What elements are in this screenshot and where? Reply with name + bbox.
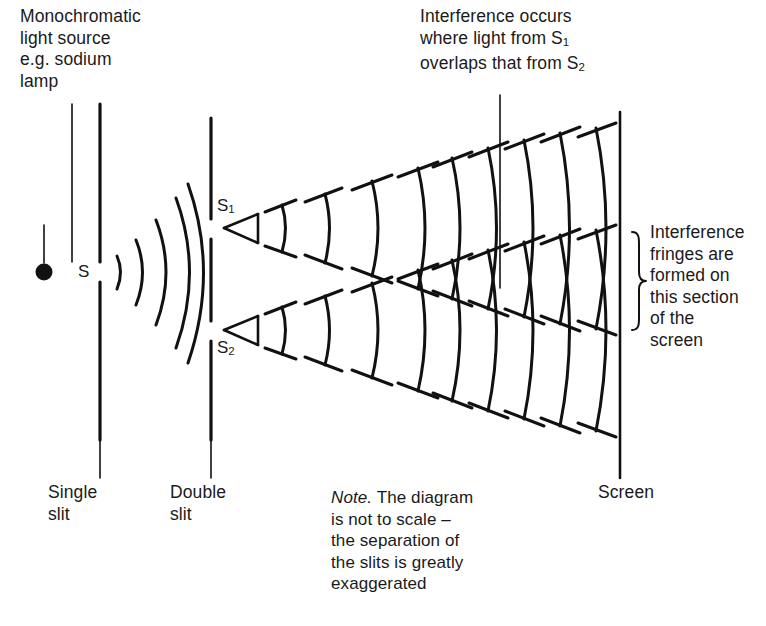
s1-tick-2-bot (305, 255, 342, 269)
wavefront-group-s1 (265, 123, 616, 335)
s2-wavefront-5 (452, 260, 460, 401)
label-single-slit: Single slit (48, 482, 97, 525)
label-interference-sub1: 1 (563, 36, 570, 48)
s2-tick-2-top (305, 290, 342, 304)
label-interference-fringes: Interference fringes are formed on this … (650, 222, 745, 351)
s2-wavefront-1 (282, 307, 286, 354)
s2-tick-1-top (265, 302, 296, 314)
label-interference-sub2: 2 (579, 61, 586, 73)
label-s2-sub: 2 (228, 345, 234, 357)
source-wavefront-2 (136, 240, 143, 305)
s2-tick-2-bot (305, 357, 342, 371)
s1-tick-1-top (265, 200, 296, 212)
s1-wavefront-2 (325, 194, 330, 263)
s2-tick-1-bot (265, 348, 296, 359)
s1-tick-3-top (352, 175, 392, 190)
s1-wavefront-1 (282, 205, 286, 252)
source-wavefront-1 (117, 256, 121, 289)
label-note: Note. The diagram is not to scale – the … (331, 487, 473, 595)
cone-s2-edge-upper-start (224, 316, 258, 330)
s1-tick-1-bot (265, 246, 296, 257)
light-source-dot (36, 264, 53, 281)
source-wavefront-3 (156, 220, 166, 325)
label-s-single: S (78, 262, 89, 282)
s2-wavefront-3 (372, 283, 378, 378)
label-s2-letter: S (217, 338, 228, 357)
label-light-source: Monochromatic light source e.g. sodium l… (20, 6, 141, 92)
diagram-canvas: Monochromatic light source e.g. sodium l… (0, 0, 766, 626)
label-interference-occurs: Interference occurs where light from S1o… (420, 6, 585, 79)
cone-s1-edge-lower-start (224, 228, 258, 243)
cone-s1-edge-upper-start (224, 214, 258, 228)
s2-wavefront-2 (325, 296, 330, 365)
s1-tick-2-top (305, 188, 342, 202)
label-interference-line3: overlaps that from S (420, 53, 579, 73)
s2-tick-3-top (352, 277, 392, 292)
label-interference-line12: Interference occurs where light from S (420, 6, 572, 48)
label-double-slit: Double slit (170, 482, 226, 525)
label-s1-letter: S (217, 196, 228, 215)
label-s1: S1 (217, 196, 235, 216)
source-wavefront-4 (176, 198, 190, 348)
label-s2: S2 (217, 338, 235, 358)
fringe-bracket (632, 232, 646, 330)
label-screen: Screen (598, 482, 654, 504)
label-s1-sub: 1 (228, 203, 234, 215)
wavefront-group-s2 (265, 225, 616, 437)
s1-wavefront-3 (372, 181, 378, 276)
label-note-italic: Note. (331, 488, 372, 507)
